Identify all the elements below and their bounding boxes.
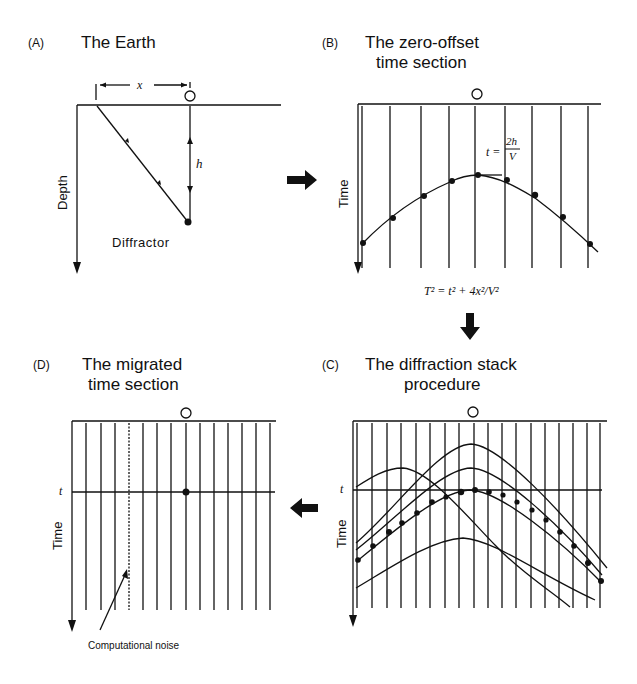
- arrow-down-icon: [460, 313, 480, 340]
- diagram-graphics: [0, 0, 637, 684]
- arrow-right-icon: [287, 170, 317, 190]
- panel-d-migrated-section: [68, 408, 276, 632]
- arrow-left-icon: [290, 498, 318, 518]
- panel-a-earth-model: [73, 82, 281, 274]
- panel-b-zero-offset-section: [354, 89, 601, 274]
- panel-c-diffraction-stack: [349, 407, 607, 627]
